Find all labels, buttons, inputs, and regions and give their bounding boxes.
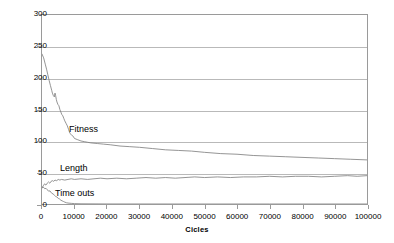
y-tick-mark xyxy=(37,78,41,79)
plot-area xyxy=(41,14,368,205)
x-tick-mark xyxy=(270,205,271,209)
y-tick-mark xyxy=(37,14,41,15)
series-line xyxy=(42,176,367,188)
x-tick-mark xyxy=(335,205,336,209)
x-tick-mark xyxy=(205,205,206,209)
x-tick-mark xyxy=(41,205,42,209)
x-tick-mark xyxy=(303,205,304,209)
chart-figure: 050100150200250300 010000200003000040000… xyxy=(0,0,394,243)
y-tick-mark xyxy=(37,141,41,142)
x-tick-mark xyxy=(237,205,238,209)
x-tick-mark xyxy=(172,205,173,209)
x-tick-mark xyxy=(368,205,369,209)
y-tick-mark xyxy=(37,46,41,47)
series-label-fitness: Fitness xyxy=(69,125,98,134)
series-label-time-outs: Time outs xyxy=(55,189,94,198)
y-tick-mark xyxy=(37,173,41,174)
y-tick-mark xyxy=(37,110,41,111)
series-line xyxy=(42,54,367,160)
x-tick-label: 100000 xyxy=(338,212,394,221)
series-lines xyxy=(42,15,367,204)
series-label-length: Length xyxy=(60,164,88,173)
x-tick-mark xyxy=(139,205,140,209)
x-tick-mark xyxy=(74,205,75,209)
x-axis-title: Cicles xyxy=(0,225,394,234)
x-tick-mark xyxy=(106,205,107,209)
